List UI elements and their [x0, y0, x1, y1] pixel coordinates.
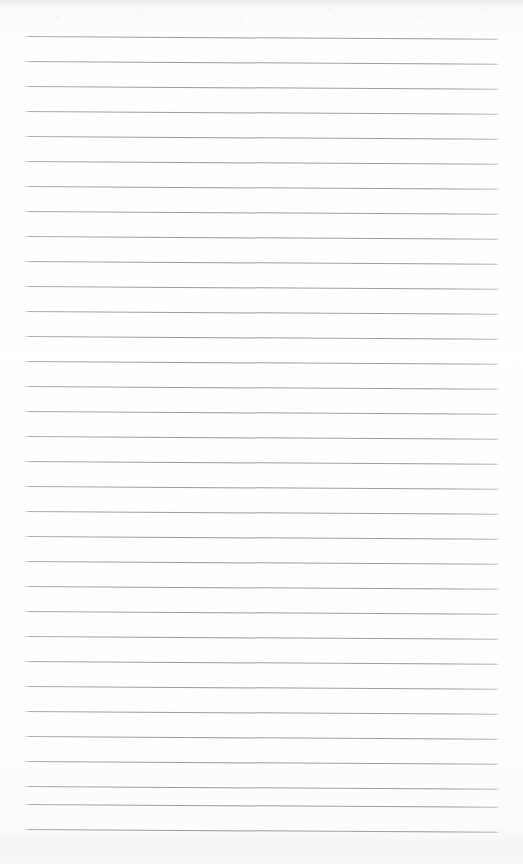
writing-area[interactable] — [24, 14, 500, 834]
notebook-page — [0, 0, 523, 864]
